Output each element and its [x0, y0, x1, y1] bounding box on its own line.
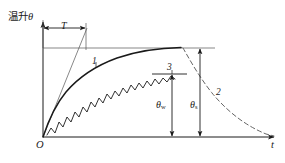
theta-s-subscript: s [195, 103, 198, 110]
curve-2-label: 2 [216, 88, 221, 98]
curve-2-cooling [183, 48, 274, 136]
x-axis-label: t [271, 140, 274, 151]
time-constant-label: T [61, 21, 67, 31]
curve-3-label: 3 [167, 63, 172, 73]
y-axis-title: 温升θ [8, 11, 33, 23]
temperature-rise-figure: 温升θ T 1 2 3 θw θs O t [0, 0, 285, 163]
theta-s-label: θs [190, 100, 197, 111]
y-axis-title-text: 温升 [8, 10, 28, 22]
origin-label: O [36, 140, 44, 151]
curve-1-label: 1 [92, 57, 97, 67]
curve-1-heating [43, 48, 181, 137]
theta-w-subscript: w [161, 103, 166, 110]
theta-w-label: θw [156, 100, 166, 111]
y-axis-title-symbol: θ [28, 11, 33, 22]
